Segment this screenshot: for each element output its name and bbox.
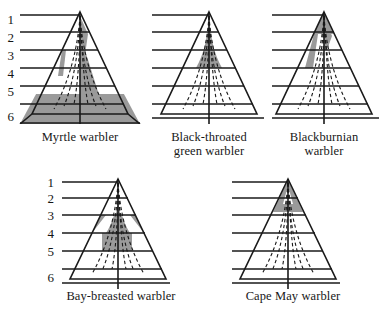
zone-number-6: 6 <box>2 110 14 123</box>
panel-cape-may <box>232 174 347 289</box>
caption-black-throated-green: Black-throated green warbler <box>143 131 275 158</box>
panel-bay-breasted: 1 2 3 4 5 6 <box>62 174 177 289</box>
zone-number-2: 2 <box>42 192 54 205</box>
zone-number-4: 4 <box>2 67 14 80</box>
panel-black-throated-green <box>152 6 267 124</box>
zone-number-3: 3 <box>42 209 54 222</box>
caption-myrtle: Myrtle warbler <box>12 131 148 145</box>
shaded-zone-bay-breasted <box>62 198 177 251</box>
tree-diagram-bay-breasted <box>62 174 177 289</box>
caption-cape-may: Cape May warbler <box>218 290 368 304</box>
zone-number-5: 5 <box>42 245 54 258</box>
zone-number-4: 4 <box>42 227 54 240</box>
panel-myrtle: 1 2 3 4 5 6 <box>14 6 144 124</box>
zone-number-5: 5 <box>2 85 14 98</box>
tree-diagram-cape-may <box>232 174 347 289</box>
zone-number-1: 1 <box>2 13 14 26</box>
tree-diagram-blackburnian <box>272 6 382 124</box>
zone-number-2: 2 <box>2 31 14 44</box>
panel-blackburnian <box>272 6 382 124</box>
caption-blackburnian: Blackburnian warbler <box>264 131 383 158</box>
caption-bay-breasted: Bay-breasted warbler <box>46 290 196 304</box>
tree-diagram-black-throated-green <box>152 6 267 124</box>
zone-number-3: 3 <box>2 49 14 62</box>
tree-diagram-myrtle <box>14 6 144 124</box>
zone-number-1: 1 <box>42 176 54 189</box>
zone-number-6: 6 <box>42 271 54 284</box>
